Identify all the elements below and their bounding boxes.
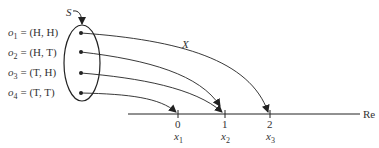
sample-space-ellipse (64, 25, 100, 101)
sample-space-pointer-arrow (73, 11, 82, 24)
mapping-label: X (181, 38, 190, 50)
outcome-label-2: o2= (H, T) (8, 46, 57, 61)
outcome-label-3: o3= (T, H) (8, 66, 56, 81)
svg-text:x1: x1 (173, 130, 183, 145)
outcome-labels: o1= (H, H) o2= (H, T) o3= (T, H) o4= (T,… (8, 26, 59, 101)
outcome-label-4: o4= (T, T) (8, 86, 55, 101)
axis-tick-2: 1 x2 (220, 110, 230, 145)
svg-text:x3: x3 (265, 130, 275, 145)
axis-tick-1: 0 x1 (173, 110, 183, 145)
sample-space-label: S (66, 6, 72, 18)
svg-text:2: 2 (267, 118, 273, 130)
svg-text:x2: x2 (220, 130, 230, 145)
mapping-arrow-o4-to-x1 (81, 93, 176, 112)
outcome-label-1: o1= (H, H) (8, 26, 59, 41)
real-axis-label: Re (363, 108, 375, 120)
svg-text:1: 1 (222, 118, 228, 130)
random-variable-diagram: S o1= (H, H) o2= (H, T) o3= (T, H) o4= (… (0, 0, 379, 148)
svg-text:0: 0 (175, 118, 181, 130)
axis-tick-3: 2 x3 (265, 110, 275, 145)
mapping-arrow-o3-to-x2 (81, 73, 222, 112)
